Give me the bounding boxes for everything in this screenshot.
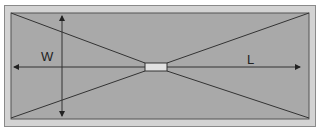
width-label: W [41,49,53,64]
center-element [145,63,167,71]
length-label: L [247,52,254,67]
tapered-plate-diagram [0,0,320,136]
